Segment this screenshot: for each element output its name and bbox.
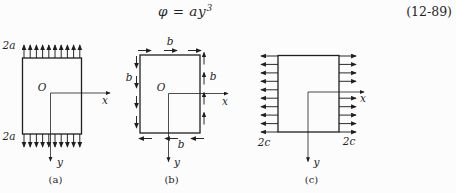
tension-arrows-right-c [339,56,356,132]
diagram-c: 2c 2c x y (c) [257,56,366,186]
plate-outline-c [278,56,339,133]
tension-arrows-left-c [261,56,278,132]
diagram-b: b b b b O x y (b) [126,35,228,185]
figure-canvas: φ = ay3 (12-89) 2a 2a O x y (a) b b b b … [0,0,456,193]
shear-label-bottom-b: b [178,138,185,150]
x-axis-label-c: x [360,92,366,104]
y-axis-label-c: y [313,156,321,168]
caption-a: (a) [49,174,63,185]
load-label-right-c: 2c [342,135,356,147]
origin-label-a: O [38,81,47,93]
axes-c [308,92,364,162]
shear-label-right-b: b [210,70,217,82]
textbook-figure-page: φ = ay3 (12-89) 2a 2a O x y (a) b b b b … [0,0,456,193]
caption-b: (b) [164,174,178,185]
caption-c: (c) [305,174,319,185]
origin-label-b: O [157,81,166,93]
tension-arrows-bottom-a [24,134,80,147]
axes-b [169,94,229,162]
shear-label-top-b: b [167,35,174,47]
load-label-left-c: 2c [257,136,271,148]
plate-outline-b [140,55,200,133]
x-axis-label-b: x [222,95,228,107]
load-label-bottom-a: 2a [2,130,16,142]
x-axis-label-a: x [102,94,108,106]
tension-arrows-top-a [24,45,80,58]
diagram-a: 2a 2a O x y (a) [2,39,110,186]
y-axis-label-a: y [56,156,64,168]
shear-label-left-b: b [126,71,133,83]
y-axis-label-b: y [173,156,181,168]
load-label-top-a: 2a [2,39,16,51]
plate-outline-a [23,58,82,134]
equation-number: (12-89) [406,4,452,19]
stress-function-equation: φ = ay3 [158,3,213,20]
